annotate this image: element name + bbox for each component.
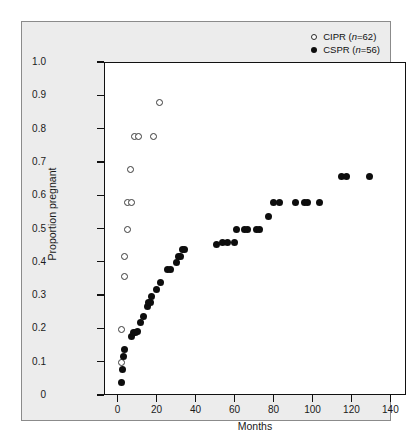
data-point-cipr <box>118 326 125 333</box>
y-axis-tick <box>97 328 104 329</box>
data-point-cspr <box>231 239 238 246</box>
legend-item-label: CIPR (n=62) <box>323 30 376 43</box>
x-axis-tick <box>156 395 157 402</box>
x-axis-tick-label: 40 <box>176 405 216 415</box>
data-point-cspr <box>137 319 144 326</box>
data-point-cipr <box>156 99 163 106</box>
data-point-cspr <box>292 199 299 206</box>
plot-area <box>104 62 406 395</box>
y-axis-tick-label: 0.3 <box>32 290 46 300</box>
x-axis-tick-label: 140 <box>370 405 410 415</box>
x-axis-tick <box>312 395 313 402</box>
y-axis-tick-label: 0 <box>40 390 46 400</box>
data-points-layer <box>105 63 405 394</box>
data-point-cspr <box>265 213 272 220</box>
data-point-cspr <box>244 226 251 233</box>
data-point-cspr <box>366 173 373 180</box>
y-axis-tick <box>97 394 104 395</box>
legend-item-label: CSPR (n=56) <box>323 43 380 56</box>
data-point-cspr <box>140 313 147 320</box>
data-point-cspr <box>167 266 174 273</box>
data-point-cipr <box>150 133 157 140</box>
y-axis-tick <box>97 195 104 196</box>
x-axis-label: Months <box>104 420 406 432</box>
chart-legend: CIPR (n=62)CSPR (n=56) <box>311 30 380 56</box>
figure-container: Proportion pregnant Months CIPR (n=62)CS… <box>0 0 412 443</box>
x-axis-tick <box>117 395 118 402</box>
x-axis-tick <box>195 395 196 402</box>
x-axis-tick-label: 100 <box>292 405 332 415</box>
data-point-cspr <box>173 259 180 266</box>
y-axis-tick-label: 0.6 <box>32 190 46 200</box>
y-axis-tick-label: 0.4 <box>32 257 46 267</box>
data-point-cspr <box>256 226 263 233</box>
x-axis-tick-label: 20 <box>137 405 177 415</box>
data-point-cspr <box>316 199 323 206</box>
data-point-cspr <box>276 199 283 206</box>
x-axis-tick <box>273 395 274 402</box>
x-axis-tick-label: 0 <box>98 405 138 415</box>
data-point-cspr <box>148 293 155 300</box>
data-point-cspr <box>120 353 127 360</box>
legend-item-cipr[interactable]: CIPR (n=62) <box>311 30 380 43</box>
x-axis-tick-label: 120 <box>331 405 371 415</box>
data-point-cspr <box>118 379 125 386</box>
y-axis-tick-label: 0.9 <box>32 90 46 100</box>
y-axis-tick <box>97 95 104 96</box>
x-axis-tick <box>234 395 235 402</box>
data-point-cspr <box>134 328 141 335</box>
data-point-cspr <box>181 246 188 253</box>
data-point-cspr <box>233 226 240 233</box>
data-point-cspr <box>121 346 128 353</box>
data-point-cspr <box>147 299 154 306</box>
y-axis-tick-label: 1.0 <box>32 57 46 67</box>
data-point-cipr <box>124 226 131 233</box>
y-axis-tick <box>97 228 104 229</box>
y-axis-tick <box>97 61 104 62</box>
data-point-cspr <box>304 199 311 206</box>
y-axis-tick <box>97 161 104 162</box>
x-axis-tick-label: 60 <box>215 405 255 415</box>
data-point-cipr <box>121 253 128 260</box>
data-point-cspr <box>177 253 184 260</box>
y-axis-tick <box>97 128 104 129</box>
y-axis-tick-label: 0.5 <box>32 224 46 234</box>
x-axis-tick <box>390 395 391 402</box>
y-axis-label: Proportion pregnant <box>46 114 58 314</box>
y-axis-tick-label: 0.8 <box>32 124 46 134</box>
x-axis-tick-label: 80 <box>254 405 294 415</box>
data-point-cipr <box>128 199 135 206</box>
y-axis-tick <box>97 261 104 262</box>
figure-panel: Proportion pregnant Months CIPR (n=62)CS… <box>21 21 391 421</box>
data-point-cspr <box>157 279 164 286</box>
y-axis-tick-label: 0.1 <box>32 357 46 367</box>
x-axis-tick <box>351 395 352 402</box>
data-point-cipr <box>135 133 142 140</box>
open-circle-icon <box>311 34 317 40</box>
y-axis-tick-label: 0.7 <box>32 157 46 167</box>
data-point-cspr <box>343 173 350 180</box>
data-point-cspr <box>153 286 160 293</box>
data-point-cspr <box>119 366 126 373</box>
y-axis-tick <box>97 294 104 295</box>
y-axis-tick-label: 0.2 <box>32 323 46 333</box>
data-point-cipr <box>127 166 134 173</box>
filled-circle-icon <box>311 47 317 53</box>
data-point-cipr <box>121 273 128 280</box>
legend-item-cspr[interactable]: CSPR (n=56) <box>311 43 380 56</box>
y-axis-tick <box>97 361 104 362</box>
